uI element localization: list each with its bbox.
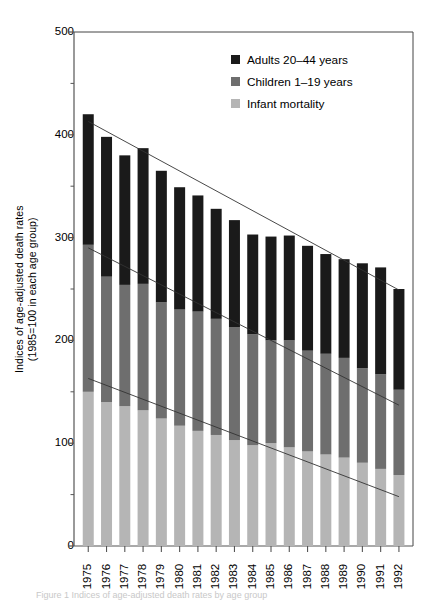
bar-segment-children	[229, 327, 240, 440]
legend-label-infant: Infant mortality	[247, 97, 324, 111]
figure-caption: Figure 1 Indices of age-adjusted death r…	[36, 590, 436, 600]
bar-segment-children	[174, 310, 185, 426]
bar-segment-infant	[375, 469, 386, 546]
bar-segment-adults	[247, 235, 258, 335]
legend-swatch-adults-icon	[231, 55, 240, 64]
legend-item-adults[interactable]: Adults 20–44 years	[231, 50, 353, 69]
bar-segment-adults	[174, 187, 185, 309]
bar-segment-infant	[192, 431, 203, 546]
plot-area	[0, 0, 441, 603]
bar-segment-children	[211, 319, 222, 435]
bar-group	[138, 148, 149, 546]
bar-segment-children	[101, 277, 112, 402]
bar-segment-adults	[357, 263, 368, 368]
bar-segment-infant	[247, 445, 258, 546]
bar-group	[247, 235, 258, 546]
bar-group	[174, 187, 185, 546]
legend-swatch-infant-icon	[231, 99, 240, 108]
legend-label-adults: Adults 20–44 years	[247, 53, 348, 67]
bar-segment-adults	[119, 155, 130, 285]
bar-group	[101, 137, 112, 546]
bar-group	[339, 259, 350, 546]
bar-group	[393, 289, 404, 546]
bar-segment-adults	[211, 209, 222, 319]
infant-trend	[88, 378, 399, 496]
bar-segment-infant	[83, 392, 94, 546]
bar-segment-infant	[266, 443, 277, 546]
bar-segment-infant	[284, 447, 295, 546]
bar-segment-children	[156, 302, 167, 418]
bar-segment-infant	[156, 419, 167, 546]
legend-item-children[interactable]: Children 1–19 years	[231, 72, 353, 91]
bar-segment-children	[357, 368, 368, 463]
bar-group	[266, 237, 277, 546]
bar-segment-children	[247, 334, 258, 445]
legend-label-children: Children 1–19 years	[247, 75, 353, 89]
bar-segment-infant	[357, 463, 368, 546]
bar-segment-infant	[211, 435, 222, 546]
legend-item-infant[interactable]: Infant mortality	[231, 94, 353, 113]
bar-segment-infant	[339, 458, 350, 546]
bar-group	[357, 263, 368, 546]
bar-segment-children	[119, 285, 130, 406]
bar-segment-adults	[302, 246, 313, 351]
bar-segment-adults	[266, 237, 277, 341]
bar-segment-infant	[174, 426, 185, 546]
legend-swatch-children-icon	[231, 77, 240, 86]
bar-segment-children	[339, 358, 350, 458]
bar-segment-adults	[284, 236, 295, 341]
bar-segment-adults	[101, 137, 112, 277]
children-trend	[88, 248, 399, 405]
bar-segment-adults	[192, 195, 203, 311]
adults-trend	[88, 121, 399, 290]
bar-group	[302, 246, 313, 546]
bar-segment-adults	[320, 254, 331, 354]
bar-group	[83, 114, 94, 546]
bar-segment-adults	[83, 114, 94, 245]
bar-segment-adults	[229, 220, 240, 327]
chart-legend: Adults 20–44 yearsChildren 1–19 yearsInf…	[231, 50, 353, 116]
bar-group	[192, 195, 203, 546]
bar-group	[119, 155, 130, 546]
bar-segment-children	[266, 340, 277, 443]
bar-segment-infant	[229, 440, 240, 546]
bar-group	[320, 254, 331, 546]
bar-segment-children	[302, 351, 313, 452]
bar-group	[211, 209, 222, 546]
bar-segment-adults	[138, 148, 149, 284]
bar-group	[229, 220, 240, 546]
bar-segment-children	[83, 245, 94, 392]
bar-segment-infant	[138, 410, 149, 546]
bar-group	[284, 236, 295, 546]
bar-segment-children	[375, 374, 386, 469]
bar-segment-children	[284, 340, 295, 447]
bar-segment-adults	[339, 259, 350, 358]
bar-group	[156, 171, 167, 546]
bar-segment-children	[192, 312, 203, 431]
bar-segment-infant	[101, 402, 112, 546]
bar-segment-children	[393, 390, 404, 475]
figure-stacked-bar-chart: Indices of age-adjusted death rates (198…	[0, 0, 441, 603]
bar-segment-infant	[320, 455, 331, 546]
bar-segment-infant	[393, 475, 404, 546]
bar-segment-adults	[375, 267, 386, 374]
bar-segment-infant	[302, 451, 313, 546]
bar-segment-adults	[393, 289, 404, 390]
bar-segment-children	[138, 284, 149, 410]
bar-segment-children	[320, 354, 331, 455]
bar-segment-infant	[119, 406, 130, 546]
bar-group	[375, 267, 386, 546]
